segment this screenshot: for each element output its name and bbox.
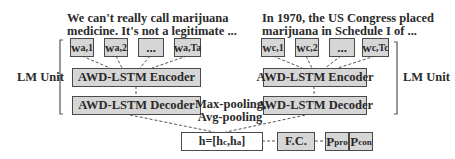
word-sub: a,2 [114, 42, 127, 53]
word-base: w [105, 40, 114, 56]
word-base: w [296, 40, 305, 56]
pooling-line2: Avg-pooling [195, 111, 265, 124]
left-word-box-2: wa,2 [104, 38, 128, 57]
left-word-box-1: wa,1 [70, 38, 94, 57]
word-sub: c,Tc [372, 42, 389, 53]
p-base: P [350, 134, 358, 150]
p-sub-pro: pro [334, 137, 347, 147]
right-word-box-ellipsis: ... [329, 38, 355, 57]
word-sub: a,1 [80, 42, 93, 53]
p-con-box: Pcon [349, 132, 373, 151]
concat-prefix: h=[h [199, 134, 223, 149]
pooling-label: Max-pooling, Avg-pooling [195, 98, 265, 124]
right-word-box-2: wc,2 [295, 38, 319, 57]
left-caption-line2: medicine. It's not a legitimate ... [67, 24, 237, 39]
ellipsis: ... [337, 40, 347, 56]
ellipsis: ... [146, 40, 156, 56]
word-sub: a,Ta [183, 42, 201, 53]
right-word-box-1: wc,1 [261, 38, 285, 57]
word-base: w [262, 40, 271, 56]
left-encoder-box: AWD-LSTM Encoder [72, 68, 201, 87]
concat-mid: ,h [227, 134, 237, 149]
left-word-box-last: wa,Ta [174, 38, 201, 57]
concat-suffix: ] [241, 134, 245, 149]
p-pro-box: Ppro [325, 132, 349, 151]
p-sub-con: con [358, 137, 372, 147]
fc-box: F.C. [277, 132, 315, 151]
right-word-box-last: wc,Tc [362, 38, 389, 57]
word-sub: c,1 [272, 42, 284, 53]
left-decoder-box: AWD-LSTM Decoder [72, 96, 201, 115]
word-base: w [71, 40, 80, 56]
word-base: w [362, 40, 371, 56]
concat-h-box: h=[hc,ha] [181, 132, 263, 151]
right-lm-unit-label: LM Unit [403, 70, 450, 85]
right-decoder-box: AWD-LSTM Decoder [263, 96, 367, 115]
p-base: P [326, 134, 334, 150]
left-lm-unit-label: LM Unit [17, 70, 64, 85]
right-caption-line2: marijuana in Schedule I of ... [262, 24, 417, 39]
word-base: w [174, 40, 183, 56]
left-word-box-ellipsis: ... [138, 38, 164, 57]
word-sub: c,2 [306, 42, 318, 53]
right-encoder-box: AWD-LSTM Encoder [263, 68, 367, 87]
